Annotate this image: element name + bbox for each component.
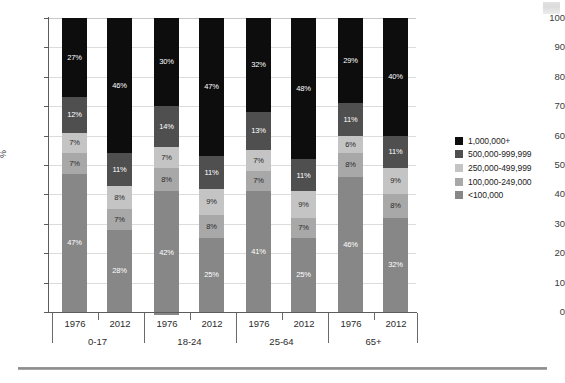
bar-segment-label: 46% (112, 82, 127, 90)
bar-segment-label: 7% (253, 177, 264, 185)
bar-segment-label: 11% (388, 148, 402, 156)
legend-item[interactable]: 1,000,000+ (455, 134, 565, 148)
bar-segment[interactable]: 41% (246, 191, 271, 312)
x-axis-group-separator (236, 313, 237, 343)
legend-item[interactable]: 500,000-999,999 (455, 148, 565, 162)
stacked-bar[interactable]: 30%14%7%8%42% (154, 18, 179, 312)
y-axis-tick-label: 20 (527, 248, 565, 258)
plot-area: 27%12%7%7%47%46%11%8%7%28%30%14%7%8%42%4… (49, 18, 416, 312)
bar-segment-label: 8% (345, 161, 356, 169)
bar-segment[interactable]: 7% (62, 153, 87, 174)
legend-label: 1,000,000+ (468, 136, 510, 146)
bar-segment-label: 48% (296, 85, 311, 93)
bar-segment[interactable]: 47% (62, 174, 87, 312)
x-axis-tick-mark (282, 313, 283, 320)
bar-segment[interactable]: 6% (338, 136, 363, 154)
bar-segment-label: 32% (251, 61, 266, 69)
bar-segment[interactable]: 9% (291, 191, 316, 217)
bar-segment[interactable]: 11% (107, 153, 132, 185)
x-axis-line (48, 312, 417, 313)
bar-segment-label: 12% (67, 111, 82, 119)
bar-segment[interactable]: 8% (199, 215, 224, 239)
stacked-bar[interactable]: 29%11%6%8%46% (338, 18, 363, 312)
x-axis-group-label: 25-64 (237, 336, 327, 347)
legend-item[interactable]: 100,000-249,000 (455, 175, 565, 189)
bar-segment[interactable]: 7% (107, 209, 132, 230)
bar-segment[interactable]: 13% (246, 112, 271, 150)
bar-segment[interactable]: 8% (383, 194, 408, 218)
legend-item[interactable]: <100,000 (455, 188, 565, 202)
bar-segment[interactable]: 32% (246, 18, 271, 112)
bar-segment[interactable]: 7% (154, 147, 179, 168)
bar-segment[interactable]: 11% (338, 103, 363, 135)
x-axis-year-label: 2012 (376, 318, 416, 329)
bar-segment-label: 32% (388, 261, 403, 269)
x-axis-tick-mark (98, 313, 99, 320)
bar-segment[interactable]: 7% (246, 150, 271, 171)
bar-segment-label: 40% (388, 73, 403, 81)
bar-segment[interactable]: 25% (199, 238, 224, 312)
bar-segment[interactable]: 11% (291, 159, 316, 191)
bar-segment-label: 47% (67, 239, 82, 247)
stacked-bar[interactable]: 46%11%8%7%28% (107, 18, 132, 312)
bar-segment[interactable]: 9% (383, 168, 408, 194)
legend-swatch (455, 137, 463, 145)
bar-segment[interactable]: 11% (199, 156, 224, 188)
bar-segment[interactable]: 7% (62, 133, 87, 154)
bar-segment[interactable]: 48% (291, 18, 316, 159)
legend-swatch (455, 178, 463, 186)
bar-segment-label: 27% (67, 54, 82, 62)
legend-label: 100,000-249,000 (468, 177, 532, 187)
x-axis-group-label: 18-24 (145, 336, 235, 347)
bar-segment[interactable]: 47% (199, 18, 224, 156)
bar-segment[interactable]: 32% (383, 218, 408, 312)
stacked-bar[interactable]: 40%11%9%8%32% (383, 18, 408, 312)
bar-segment[interactable]: 9% (199, 189, 224, 215)
bar-segment[interactable]: 8% (154, 168, 179, 192)
x-axis-tick-mark (190, 313, 191, 320)
bar-segment[interactable]: 28% (107, 230, 132, 312)
stacked-bar[interactable]: 32%13%7%7%41% (246, 18, 271, 312)
stacked-bar[interactable]: 27%12%7%7%47% (62, 18, 87, 312)
bar-segment-label: 8% (161, 176, 172, 184)
stacked-bar-chart: % 1009080706050403020100 27%12%7%7%47%46… (0, 0, 565, 383)
stacked-bar[interactable]: 48%11%9%7%25% (291, 18, 316, 312)
bar-segment[interactable]: 7% (246, 171, 271, 192)
x-axis-year-label: 1976 (239, 318, 279, 329)
y-axis-tick-label: 30 (527, 219, 565, 229)
bar-segment[interactable]: 14% (154, 106, 179, 147)
bar-segment[interactable]: 27% (62, 18, 87, 97)
bar-segment-label: 28% (112, 267, 127, 275)
x-axis-group-separator (328, 313, 329, 343)
bar-segment-label: 25% (204, 271, 219, 279)
legend-label: <100,000 (468, 190, 503, 200)
stacked-bar[interactable]: 47%11%9%8%25% (199, 18, 224, 312)
legend-swatch (455, 150, 463, 158)
legend-label: 250,000-499,999 (468, 163, 532, 173)
bar-segment-label: 8% (114, 194, 125, 202)
y-axis-tick-label: 70 (527, 101, 565, 111)
bar-segment-label: 29% (343, 57, 358, 65)
bar-segment[interactable]: 25% (291, 238, 316, 312)
bar-segment-label: 11% (204, 169, 218, 177)
x-axis-year-label: 1976 (147, 318, 187, 329)
bar-segment-label: 11% (343, 116, 357, 124)
legend-swatch (455, 191, 463, 199)
bar-segment[interactable]: 11% (383, 136, 408, 168)
legend-item[interactable]: 250,000-499,999 (455, 161, 565, 175)
bar-segment[interactable]: 46% (338, 177, 363, 312)
bar-segment[interactable]: 8% (107, 186, 132, 210)
bar-segment-label: 7% (69, 139, 80, 147)
bar-segment[interactable]: 29% (338, 18, 363, 103)
bar-segment-label: 11% (296, 172, 310, 180)
bar-segment[interactable]: 8% (338, 153, 363, 177)
bar-segment[interactable]: 7% (291, 218, 316, 239)
bar-segment[interactable]: 40% (383, 18, 408, 136)
bar-segment[interactable]: 12% (62, 97, 87, 132)
x-axis-year-label: 1976 (55, 318, 95, 329)
bar-segment[interactable]: 42% (154, 191, 179, 314)
legend-label: 500,000-999,999 (468, 149, 532, 159)
bar-segment-label: 9% (298, 201, 309, 209)
bar-segment[interactable]: 46% (107, 18, 132, 153)
bar-segment[interactable]: 30% (154, 18, 179, 106)
